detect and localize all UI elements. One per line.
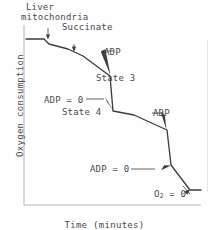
annotation-adp-zero-first: ADP = 0 <box>44 95 83 106</box>
annotation-o2-zero: O2 = 0 <box>154 189 186 202</box>
annotation-adp-first: ADP <box>104 47 121 58</box>
annotation-state-4: State 4 <box>62 107 101 118</box>
y-axis-label-wrapper: Oxygen consumption <box>8 46 27 166</box>
annotation-succinate: Succinate <box>62 22 113 33</box>
annotation-adp-zero-second: ADP = 0 <box>90 164 129 175</box>
y-axis-label: Oxygen consumption <box>15 54 25 157</box>
o2-zero-value: = 0 <box>164 189 186 199</box>
oxygraph-figure: Liver mitochondria Succinate ADP State 3… <box>0 0 209 230</box>
x-axis-label-wrapper: Time (minutes) <box>0 213 209 230</box>
arrowhead-succinate <box>46 35 50 40</box>
annotation-state-3: State 3 <box>96 73 135 84</box>
x-axis-label: Time (minutes) <box>64 220 144 230</box>
arrowhead-adp-zero-second <box>161 165 171 170</box>
annotation-adp-second: ADP <box>153 108 170 119</box>
